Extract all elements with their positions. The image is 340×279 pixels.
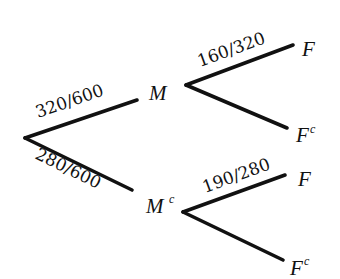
node-m-fc-superscript: c <box>310 122 316 136</box>
node-mc-fc-superscript: c <box>304 254 310 268</box>
node-mc-superscript: c <box>169 192 175 206</box>
prob-label-mc-f: 190/280 <box>200 154 273 197</box>
node-mc-f: F <box>297 167 311 191</box>
prob-label-m-f: 160/320 <box>195 28 268 71</box>
probability-tree-diagram: 320/600 280/600 160/320 190/280 M M c F … <box>0 0 340 279</box>
prob-label-mc: 280/600 <box>32 144 104 193</box>
node-m-fc: F <box>295 123 309 147</box>
node-m-f: F <box>301 37 315 61</box>
node-mc-fc: F <box>289 256 303 279</box>
edge-m-to-fc <box>186 85 287 128</box>
edge-mc-to-fc <box>183 212 283 260</box>
node-m: M <box>148 81 168 105</box>
node-mc: M <box>145 194 165 218</box>
